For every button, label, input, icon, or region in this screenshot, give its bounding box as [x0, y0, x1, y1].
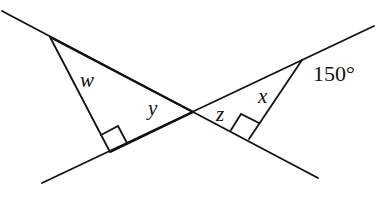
label-x: x	[258, 86, 267, 107]
right-angle-marker-right	[231, 114, 259, 130]
label-angle-150: 150°	[313, 63, 355, 85]
left-triangle-hypotenuse	[50, 37, 193, 112]
label-w: w	[80, 70, 94, 91]
label-z: z	[216, 104, 224, 125]
label-y: y	[148, 98, 157, 119]
geometry-figure	[0, 0, 385, 199]
line-b	[42, 26, 374, 183]
